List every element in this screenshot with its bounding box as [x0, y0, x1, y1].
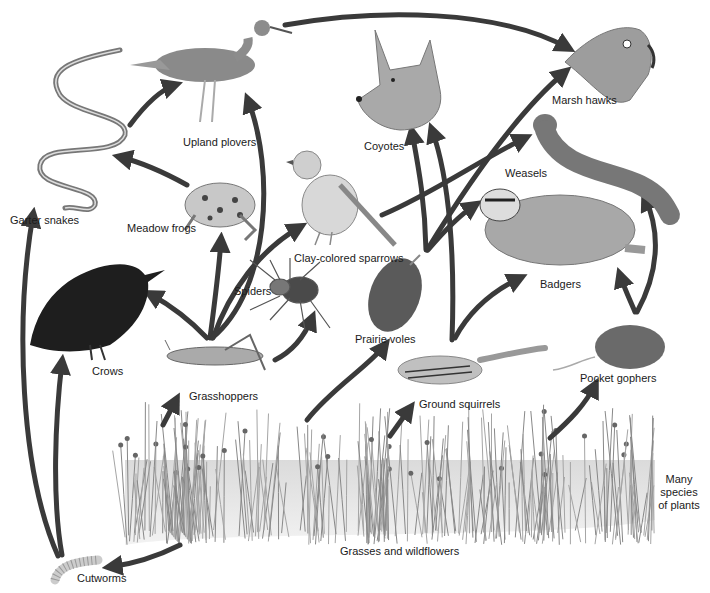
- label-prairie-voles: Prairie voles: [355, 333, 416, 346]
- marsh-hawk-illustration: [565, 28, 654, 103]
- arrow-gophers-to-weasels: [637, 198, 655, 312]
- label-meadow-frogs: Meadow frogs: [127, 222, 196, 235]
- label-spiders: Spiders: [234, 285, 271, 298]
- label-grasshoppers: Grasshoppers: [189, 390, 258, 403]
- label-grasses-and-wildflowers: Grasses and wildflowers: [340, 545, 459, 558]
- grasses-illustration: [113, 402, 655, 545]
- label-crows: Crows: [92, 365, 123, 378]
- label-many-species-of-plants: Many species of plants: [655, 473, 703, 512]
- arrow-grasshoppers-to-crows: [150, 294, 207, 338]
- sparrow-illustration: [286, 151, 395, 245]
- badger-illustration: [480, 189, 645, 265]
- pocket-gopher-illustration: [553, 325, 665, 370]
- crow-illustration: [30, 264, 165, 360]
- label-clay-colored-sparrows: Clay-colored sparrows: [294, 252, 403, 265]
- label-coyotes: Coyotes: [364, 140, 404, 153]
- label-upland-plovers: Upland plovers: [183, 136, 256, 149]
- upland-plover-illustration: [130, 20, 292, 122]
- label-marsh-hawks: Marsh hawks: [552, 94, 617, 107]
- plants-note-line-1: Many: [655, 473, 703, 486]
- arrow-plovers-to-hawks: [285, 15, 568, 48]
- grasshopper-illustration: [165, 335, 265, 370]
- label-cutworms: Cutworms: [77, 572, 127, 585]
- food-web-artwork: [0, 0, 710, 593]
- plants-note-line-2: species: [655, 486, 703, 499]
- plants-note-line-3: of plants: [655, 499, 703, 512]
- label-ground-squirrels: Ground squirrels: [419, 398, 500, 411]
- label-weasels: Weasels: [505, 167, 547, 180]
- arrow-gophers-to-badgers: [620, 275, 635, 312]
- arrow-grasshoppers-to-spiders: [275, 318, 312, 360]
- arrow-grass-to-grasshoppers: [163, 400, 176, 425]
- coyote-illustration: [356, 30, 441, 130]
- label-badgers: Badgers: [540, 278, 581, 291]
- ground-squirrel-illustration: [398, 348, 545, 384]
- garter-snake-illustration: [40, 50, 126, 210]
- arrow-grass-to-squirrels: [390, 408, 410, 436]
- arrow-grass-to-cutworms: [110, 545, 180, 567]
- arrow-frogs-to-snakes: [120, 157, 187, 185]
- arrow-squirrels-to-badgers: [455, 278, 520, 338]
- arrow-cutworms-to-snakes: [23, 215, 58, 556]
- arrow-grass-to-voles: [307, 345, 385, 420]
- arrow-snakes-to-plovers: [130, 85, 175, 125]
- label-pocket-gophers: Pocket gophers: [580, 372, 656, 385]
- garter-snake-stripe: [40, 50, 126, 210]
- arrow-voles-to-coyotes: [412, 132, 426, 250]
- label-garter-snakes: Garter snakes: [10, 214, 79, 227]
- arrow-cutworms-to-crows: [56, 362, 62, 555]
- food-web-diagram: Garter snakes Upland plovers Meadow frog…: [0, 0, 710, 593]
- arrow-grass-to-gophers: [550, 385, 595, 438]
